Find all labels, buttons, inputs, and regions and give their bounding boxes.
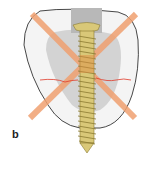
- bone-screw-diagram: [0, 0, 157, 172]
- panel-label: b: [12, 128, 19, 140]
